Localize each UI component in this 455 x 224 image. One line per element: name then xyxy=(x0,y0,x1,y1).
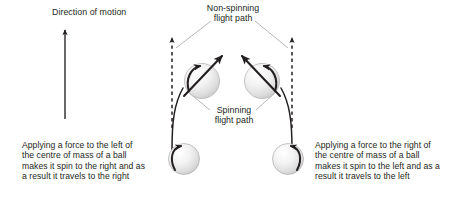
spinning-path-right xyxy=(281,88,292,150)
ball-upper-right xyxy=(242,56,280,99)
non-spinning-flight-path-label: Non-spinning flight path xyxy=(196,3,270,24)
ball-upper-left xyxy=(184,56,222,99)
caption-left: Applying a force to the left of the cent… xyxy=(22,140,146,182)
direction-of-motion-label: Direction of motion xyxy=(52,7,126,17)
spinning-flight-path-label: Spinning flight path xyxy=(204,105,264,126)
caption-right: Applying a force to the right of the cen… xyxy=(315,140,445,182)
ball-lower-right xyxy=(273,144,304,175)
spinning-path-left xyxy=(172,88,183,150)
ball-lower-left xyxy=(169,144,200,175)
leader-lines xyxy=(176,21,288,110)
figure-canvas: Direction of motion Non-spinning flight … xyxy=(0,0,455,224)
